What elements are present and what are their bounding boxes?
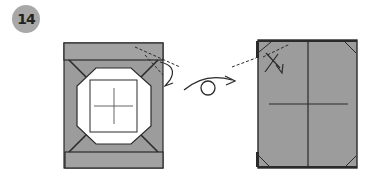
right-model: [232, 40, 357, 168]
top-band: [64, 43, 163, 60]
fold-guide-line: [232, 58, 256, 67]
turn-over-icon: [184, 76, 235, 95]
left-model: [64, 43, 180, 168]
bottom-band: [65, 152, 163, 168]
origami-diagram: [0, 0, 374, 178]
